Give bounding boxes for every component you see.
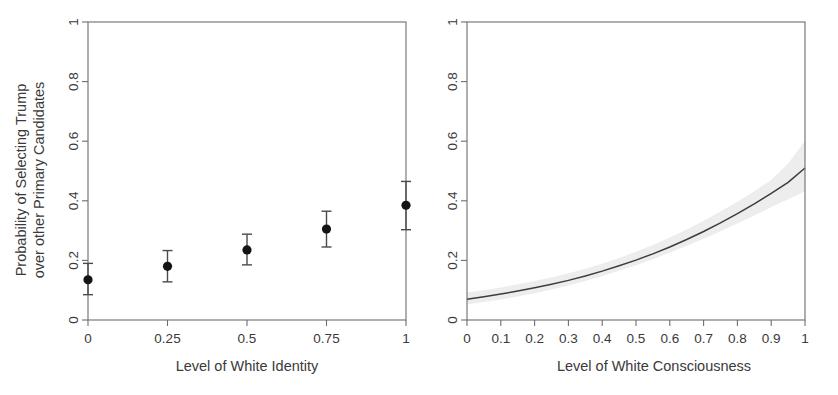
left-y-tick-5: 1 <box>66 18 81 26</box>
data-point <box>401 201 410 210</box>
left-plot-frame <box>82 22 406 326</box>
right-x-tick-1: 0.1 <box>491 331 510 346</box>
right-confidence-band <box>467 141 805 305</box>
right-x-tick-labels: 00.10.20.30.40.50.60.70.80.91 <box>463 331 809 346</box>
left-y-tick-3: 0.6 <box>66 132 81 151</box>
data-point <box>322 225 331 234</box>
data-point <box>83 275 92 284</box>
left-x-tick-4: 1 <box>402 331 410 346</box>
right-plot-frame <box>461 22 805 326</box>
right-x-tick-0: 0 <box>463 331 471 346</box>
right-y-tick-1: 0.2 <box>445 251 460 270</box>
left-y-tick-4: 0.8 <box>66 72 81 91</box>
right-x-tick-9: 0.9 <box>762 331 781 346</box>
right-x-tick-5: 0.5 <box>627 331 646 346</box>
chart-panel-right: 00.20.40.60.81 00.10.20.30.40.50.60.70.8… <box>419 0 838 395</box>
right-x-tick-6: 0.6 <box>660 331 679 346</box>
right-fit-line <box>467 168 805 299</box>
left-y-tick-2: 0.4 <box>66 191 81 210</box>
right-x-tick-10: 1 <box>801 331 809 346</box>
chart-panel-left: Probability of Selecting Trump over othe… <box>0 0 419 395</box>
right-x-tick-3: 0.3 <box>559 331 578 346</box>
left-y-axis-title-line1: Probability of Selecting Trump <box>13 84 29 277</box>
right-x-axis-title: Level of White Consciousness <box>557 358 751 374</box>
left-x-tick-3: 0.75 <box>313 331 339 346</box>
right-y-tick-2: 0.4 <box>445 191 460 210</box>
left-x-tick-labels: 00.250.50.751 <box>84 331 410 346</box>
left-x-tick-0: 0 <box>84 331 92 346</box>
data-point <box>163 262 172 271</box>
predicted-probability-curve <box>467 168 805 299</box>
confidence-interval-polygon <box>467 141 805 305</box>
left-error-bars <box>83 181 411 294</box>
left-y-tick-0: 0 <box>66 316 81 324</box>
left-x-tick-2: 0.5 <box>238 331 257 346</box>
left-y-axis-title-line2: over other Primary Candidates <box>31 82 47 279</box>
right-x-tick-4: 0.4 <box>593 331 612 346</box>
left-y-tick-1: 0.2 <box>66 251 81 270</box>
right-y-tick-0: 0 <box>445 316 460 324</box>
right-x-tick-2: 0.2 <box>525 331 544 346</box>
right-y-tick-labels: 00.20.40.60.81 <box>445 18 460 324</box>
right-y-tick-3: 0.6 <box>445 132 460 151</box>
right-x-tick-7: 0.7 <box>694 331 713 346</box>
left-y-tick-labels: 00.20.40.60.81 <box>66 18 81 324</box>
data-point <box>242 245 251 254</box>
left-y-axis-title: Probability of Selecting Trump over othe… <box>13 82 47 279</box>
figure-root: Probability of Selecting Trump over othe… <box>0 0 838 395</box>
left-x-tick-1: 0.25 <box>154 331 180 346</box>
left-x-axis-title: Level of White Identity <box>176 358 319 374</box>
right-y-tick-5: 1 <box>445 18 460 26</box>
right-x-tick-8: 0.8 <box>728 331 747 346</box>
right-y-tick-4: 0.8 <box>445 72 460 91</box>
